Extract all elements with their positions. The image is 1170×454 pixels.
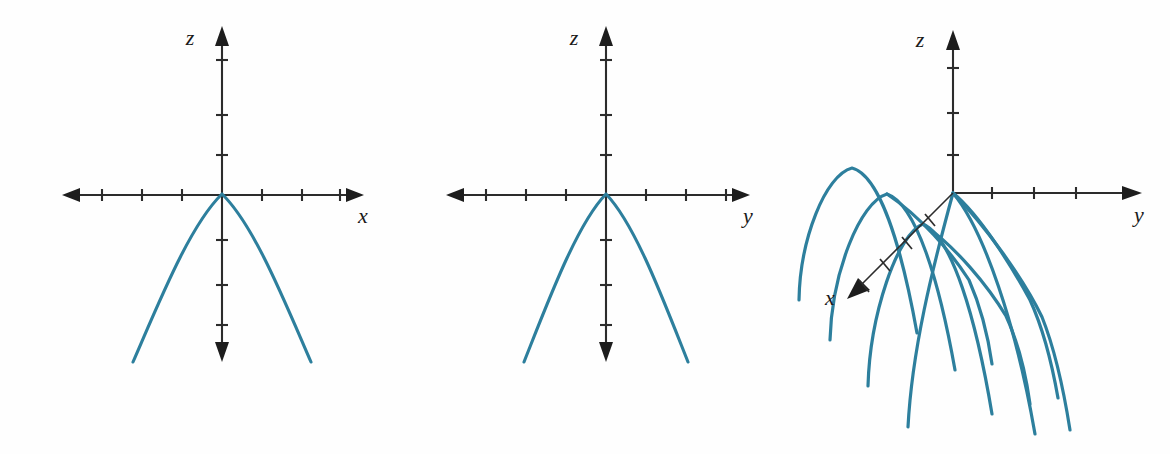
panel-yz-trace: y z bbox=[390, 0, 780, 454]
y-axis-arrowhead-left bbox=[446, 188, 464, 202]
panel-xz-trace: x z bbox=[0, 0, 390, 454]
x-axis-label-3d: x bbox=[824, 285, 835, 310]
y-axis-label-3d: y bbox=[1132, 202, 1144, 227]
z-axis-arrowhead-down bbox=[599, 342, 613, 362]
x-axis-group bbox=[62, 188, 364, 202]
math-figure-root: x z y z bbox=[0, 0, 1170, 454]
z-axis-label-3d: z bbox=[915, 27, 925, 52]
z-axis-label: z bbox=[569, 25, 579, 50]
panel-3d-traces: y z x bbox=[780, 0, 1170, 454]
parabola-trace-front-a bbox=[953, 193, 1058, 398]
y-axis-arrowhead-right-3d bbox=[1122, 186, 1142, 200]
y-axis-arrowhead-right bbox=[732, 188, 750, 202]
z-axis-arrowhead-up-3d bbox=[946, 30, 960, 50]
x-axis-arrowhead-right bbox=[346, 188, 364, 202]
x-axis-label: x bbox=[357, 203, 368, 228]
x-axis-arrowhead-left bbox=[62, 188, 80, 202]
z-axis-arrowhead-up bbox=[215, 26, 229, 46]
parabola-trace-x2 bbox=[830, 194, 955, 370]
y-axis-group bbox=[446, 188, 750, 202]
z-axis-group-3d bbox=[946, 30, 960, 196]
y-axis-group-3d bbox=[953, 186, 1142, 200]
z-axis-label: z bbox=[185, 25, 195, 50]
parabola-trace-x1 bbox=[868, 224, 992, 414]
z-axis-arrowhead-down bbox=[215, 342, 229, 362]
y-axis-label: y bbox=[741, 203, 753, 228]
z-axis-arrowhead-up bbox=[599, 26, 613, 46]
